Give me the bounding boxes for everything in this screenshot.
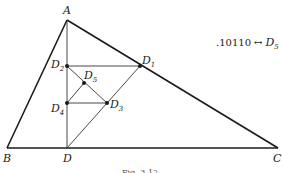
label-C: C [273,152,282,165]
point-D3 [105,101,109,105]
label-A: A [62,4,71,17]
segment-D-D1 [67,66,140,148]
label-D: D [62,152,72,165]
binary-correspondence-annotation: .10110↔D5 [216,36,279,51]
labels: A B C D D1 D2 D3 D4 D5 [2,4,282,165]
construction-lines [67,20,140,148]
label-D1: D1 [141,54,155,69]
figure-caption: Fig. 3.12 [122,168,158,173]
point-D2 [65,64,69,68]
label-B: B [2,152,11,165]
side-AB [7,20,67,148]
label-D2: D2 [50,58,65,73]
segment-D4-D5 [67,83,84,103]
label-D3: D3 [109,98,124,113]
points [65,64,142,105]
point-D4 [65,101,69,105]
triangle-subdivision-diagram: A B C D D1 D2 D3 D4 D5 .10110↔D5 Fig. 3.… [0,0,283,173]
label-D4: D4 [50,102,64,117]
label-D5: D5 [83,69,98,84]
